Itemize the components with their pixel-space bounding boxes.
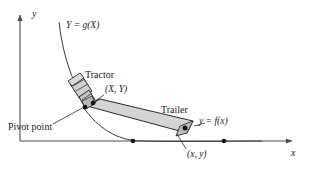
pivot-point-label: Pivot point [8,122,52,132]
pivot-point-leader [53,107,84,124]
trailer-path-curve-label: y = f(x) [199,117,228,127]
diagram-svg [0,0,309,179]
tractor-label: Tractor [85,70,114,80]
tractor-coordinate-label: (X, Y) [105,85,127,95]
trailer-coordinate-label: (x, y) [187,150,207,160]
y-axis-label: y [32,9,36,19]
axis-marker-right [222,139,227,144]
figure-canvas: y x Y = g(X) y = f(x) Tractor Trailer (X… [0,0,309,179]
axis-marker-left [131,139,136,144]
x-axis-label: x [291,148,295,158]
tractor-path-curve-label: Y = g(X) [66,21,99,31]
trailer-label: Trailer [161,105,188,115]
pivot-point-marker [83,105,88,110]
trailer-rear-marker [183,126,188,131]
hitch-point-marker [91,101,96,106]
